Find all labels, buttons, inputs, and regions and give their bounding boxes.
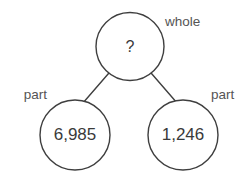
number-bond-canvas: ? whole 6,985 part 1,246 part (0, 0, 249, 177)
connector-whole-to-right-part (152, 74, 178, 104)
whole-label: whole (164, 14, 200, 29)
number-bond-diagram: ? whole 6,985 part 1,246 part (0, 0, 249, 177)
left-part-value: 6,985 (54, 125, 97, 144)
whole-value: ? (126, 38, 135, 55)
connector-whole-to-left-part (83, 74, 109, 104)
right-part-value: 1,246 (162, 125, 205, 144)
left-part-label: part (24, 87, 48, 102)
right-part-label: part (211, 87, 235, 102)
